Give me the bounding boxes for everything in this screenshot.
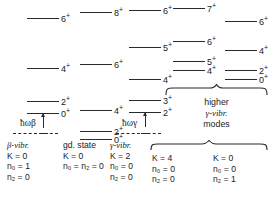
caption-n0: n₀ = 1	[7, 161, 30, 172]
level-bar	[173, 8, 205, 9]
level-bar	[129, 10, 161, 11]
level-label: 6+	[207, 35, 216, 47]
level-label: 2+	[61, 95, 70, 107]
level-bar	[27, 18, 59, 19]
level-label: 7+	[207, 2, 216, 14]
level-bar	[173, 41, 205, 42]
level-label: 6+	[61, 12, 70, 24]
caption-line: gd. state	[63, 140, 104, 151]
omega-gamma-label: ħωγ	[122, 118, 137, 128]
baseline-dashed	[116, 133, 161, 134]
caption-K: K = 4	[152, 153, 175, 164]
level-bar	[129, 79, 161, 80]
group-line-3: modes	[166, 119, 267, 130]
column-caption-gd-state: gd. state K = 0 n₀ = n₂ = 0	[63, 140, 104, 172]
baseline-dashed	[13, 133, 58, 134]
level-label: 6+	[163, 4, 172, 16]
level-label: 4+	[61, 62, 70, 74]
caption-K: K = 0	[7, 151, 30, 162]
level-scheme-diagram: 6+ 4+ 2+ 0+ ħωβ β-vibr. K = 0 n₀ = 1 n₂ …	[0, 0, 270, 201]
caption-n0: n₀ = 0	[152, 164, 175, 175]
caption-K: K = 0	[213, 153, 236, 164]
level-label: 6+	[259, 15, 268, 27]
caption-n2: n₂ = 0	[7, 172, 30, 183]
level-bar	[225, 79, 257, 80]
level-bar	[27, 101, 59, 102]
level-label: 0+	[61, 107, 70, 119]
level-label: 4+	[259, 44, 268, 56]
level-bar	[173, 70, 205, 71]
caption-n2: n₂ = 0	[110, 172, 133, 183]
column-caption-beta-vibr: β-vibr. K = 0 n₀ = 1 n₂ = 0	[7, 140, 30, 182]
caption-n0: n₀ = 0	[110, 161, 133, 172]
level-bar	[80, 110, 112, 111]
column-caption-higher-k4: K = 4 n₀ = 0 n₂ = 0	[152, 153, 175, 185]
level-label: 5+	[163, 41, 172, 53]
level-bar	[225, 50, 257, 51]
caption-n2: n₂ = 0	[152, 174, 175, 185]
group-line-2: γ-vibr.	[166, 108, 267, 119]
omega-beta-label: ħωβ	[20, 118, 36, 128]
higher-modes-brace	[165, 84, 268, 96]
level-bar	[80, 12, 112, 13]
level-bar	[129, 47, 161, 48]
higher-modes-annotation: higher γ-vibr. modes	[166, 97, 267, 130]
caption-line: β-vibr.	[7, 140, 30, 151]
caption-K: K = 0	[63, 151, 104, 162]
level-bar	[173, 61, 205, 62]
level-label: 6+	[114, 58, 123, 70]
level-bar	[225, 70, 257, 71]
higher-modes-lower-brace	[150, 140, 268, 151]
caption-n: n₀ = n₂ = 0	[63, 161, 104, 172]
level-bar	[27, 68, 59, 69]
level-bar	[80, 131, 112, 132]
caption-n0: n₀ = 0	[213, 164, 236, 175]
level-label: 8+	[114, 6, 123, 18]
caption-K: K = 2	[110, 151, 133, 162]
caption-n2: n₂ = 1	[213, 174, 236, 185]
column-caption-gamma-vibr: γ-vibr. K = 2 n₀ = 0 n₂ = 0	[110, 140, 133, 182]
group-line-1: higher	[166, 97, 267, 108]
column-caption-higher-k0: K = 0 n₀ = 0 n₂ = 1	[213, 153, 236, 185]
level-label: 4+	[114, 104, 123, 116]
level-bar	[129, 100, 161, 101]
level-bar	[80, 64, 112, 65]
level-label: 4+	[207, 64, 216, 76]
caption-line: γ-vibr.	[110, 140, 133, 151]
level-bar	[225, 21, 257, 22]
